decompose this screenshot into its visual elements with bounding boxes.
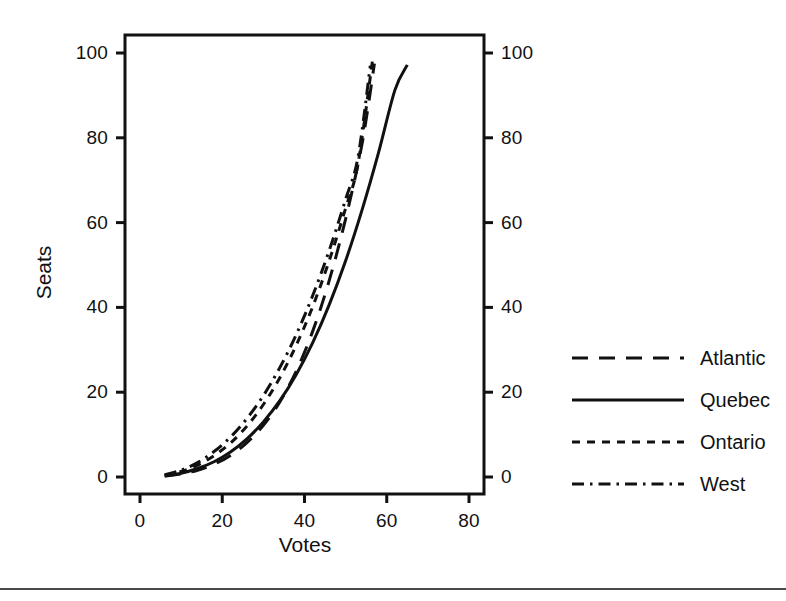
y-axis-tick-label-left: 80 bbox=[48, 128, 108, 147]
x-axis-tick-label: 60 bbox=[357, 511, 417, 530]
legend-label-atlantic: Atlantic bbox=[700, 348, 766, 368]
y-axis-tick-label-right: 100 bbox=[501, 43, 561, 62]
x-axis-tick-label: 40 bbox=[275, 511, 335, 530]
x-axis-title: Votes bbox=[245, 534, 365, 555]
page-divider-rule bbox=[0, 588, 786, 590]
legend-label-west: West bbox=[700, 474, 745, 494]
series-layer bbox=[165, 61, 408, 476]
y-axis-tick-label-left: 100 bbox=[48, 43, 108, 62]
series-line-quebec bbox=[165, 65, 408, 476]
legend-line-swatches bbox=[572, 358, 684, 484]
y-axis-tick-label-left: 0 bbox=[48, 467, 108, 486]
x-axis-tick-label: 0 bbox=[110, 511, 170, 530]
axis-tick-marks bbox=[116, 53, 493, 503]
series-line-west bbox=[165, 66, 371, 475]
x-axis-tick-label: 20 bbox=[192, 511, 252, 530]
y-axis-tick-label-left: 60 bbox=[48, 213, 108, 232]
y-axis-tick-label-left: 40 bbox=[48, 297, 108, 316]
legend-label-quebec: Quebec bbox=[700, 390, 770, 410]
y-axis-tick-label-right: 60 bbox=[501, 213, 561, 232]
y-axis-tick-label-right: 40 bbox=[501, 297, 561, 316]
plot-frame bbox=[125, 35, 484, 494]
y-axis-tick-label-right: 80 bbox=[501, 128, 561, 147]
y-axis-tick-label-left: 20 bbox=[48, 382, 108, 401]
x-axis-tick-label: 80 bbox=[439, 511, 499, 530]
y-axis-tick-label-right: 20 bbox=[501, 382, 561, 401]
series-line-ontario bbox=[165, 61, 373, 475]
figure-root: 002020404060608080100100020406080 Seats … bbox=[0, 0, 786, 601]
legend-label-ontario: Ontario bbox=[700, 432, 766, 452]
y-axis-title: Seats bbox=[33, 228, 54, 318]
y-axis-tick-label-right: 0 bbox=[501, 467, 561, 486]
